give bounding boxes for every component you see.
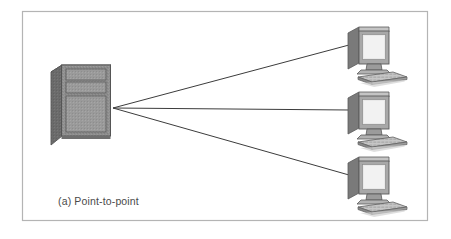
drive-bay-middle	[66, 82, 106, 93]
figure-caption: (a) Point-to-point	[58, 195, 139, 207]
server-side-face	[51, 65, 62, 145]
server-base-shadow	[62, 136, 111, 139]
drive-bay-top	[66, 69, 106, 80]
front-door-panel	[66, 96, 106, 132]
point-to-point-diagram: (a) Point-to-point	[0, 0, 451, 239]
figure-root: (a) Point-to-point	[0, 0, 451, 239]
mainframe-server	[51, 65, 111, 145]
